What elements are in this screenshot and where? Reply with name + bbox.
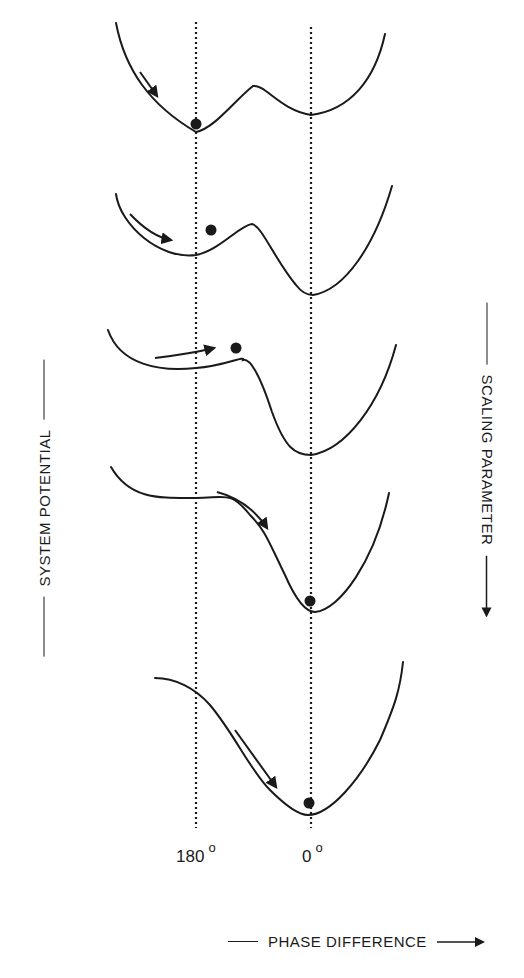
degree-symbol: o [315,840,322,855]
axis-dash-left [43,597,45,657]
potential-curve-1 [116,23,385,132]
x-axis-label-text: PHASE DIFFERENCE [268,933,427,950]
diagram-canvas [0,0,524,978]
tick-180-value: 180 [176,847,204,866]
potential-curve-4 [111,467,389,612]
scaling-parameter-label: SCALING PARAMETER [479,303,496,618]
ball-panel-5 [304,798,315,809]
arrow-panel-2 [130,214,171,240]
y-axis-label-text: SYSTEM POTENTIAL [36,429,53,586]
ball-panel-3 [231,343,242,354]
tick-0: 0o [302,843,323,867]
ball-panel-2 [206,225,217,236]
potential-curve-3 [108,330,396,455]
ball-panel-1 [191,119,202,130]
ball-panel-4 [305,596,316,607]
axis-dash-right [43,359,45,419]
arrow-right-icon [437,936,485,948]
x-axis-label: PHASE DIFFERENCE [228,933,485,950]
potential-curve-2 [116,186,392,295]
tick-0-value: 0 [302,847,311,866]
axis-dash-top [486,303,488,365]
y-axis-label: SYSTEM POTENTIAL [36,359,53,656]
tick-180: 180o [176,843,216,867]
scaling-parameter-text: SCALING PARAMETER [479,375,496,546]
arrow-panel-5 [235,730,276,787]
potential-curve-5 [155,662,403,815]
arrow-down-icon [481,555,493,617]
degree-symbol: o [208,840,215,855]
arrow-panel-3 [155,348,214,358]
axis-dash-left [228,941,258,943]
